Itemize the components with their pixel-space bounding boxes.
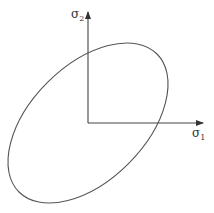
sigma1-label: σ1: [192, 127, 205, 142]
sigma2-label: σ2: [71, 8, 84, 23]
sigma1-subscript: 1: [200, 133, 205, 142]
yield-ellipse: [0, 13, 198, 213]
sigma2-symbol: σ: [71, 7, 79, 21]
diagram-canvas: [0, 0, 214, 213]
sigma1-symbol: σ: [192, 126, 200, 140]
sigma2-subscript: 2: [79, 14, 84, 23]
